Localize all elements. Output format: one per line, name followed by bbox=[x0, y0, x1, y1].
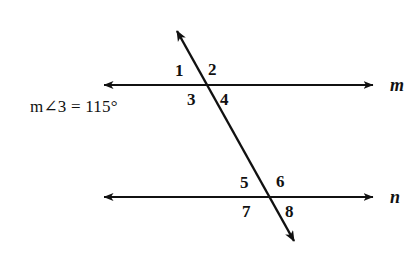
angle-label-6: 6 bbox=[276, 173, 285, 190]
angle-label-3: 3 bbox=[187, 91, 196, 108]
angle-label-7: 7 bbox=[242, 203, 251, 220]
angle-label-5: 5 bbox=[240, 174, 249, 191]
angle-label-2: 2 bbox=[208, 61, 217, 78]
angle-label-1: 1 bbox=[175, 62, 184, 79]
line-label-n: n bbox=[390, 188, 400, 206]
given-measure-text: m∠3 = 115° bbox=[30, 98, 118, 115]
figure-canvas bbox=[0, 0, 419, 271]
line-label-m: m bbox=[390, 76, 404, 94]
angle-label-8: 8 bbox=[285, 203, 294, 220]
angle-label-4: 4 bbox=[220, 91, 229, 108]
transversal-stroke bbox=[177, 31, 294, 241]
geometry-figure: m∠3 = 115° m n 1 2 3 4 5 6 7 8 bbox=[0, 0, 419, 271]
